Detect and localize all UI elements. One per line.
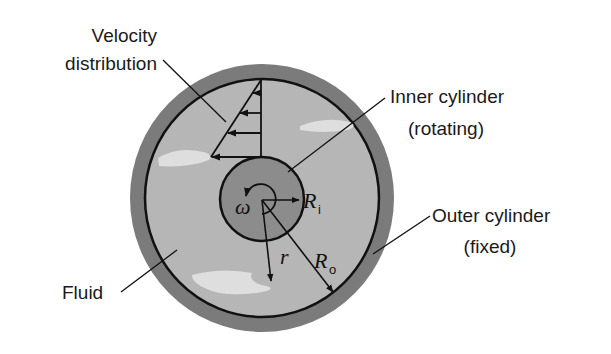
inner-label-line1: Inner cylinder (390, 86, 505, 107)
couette-flow-diagram: ω R i r R o Velocity distribution Inner … (0, 0, 611, 354)
outer-label-line1: Outer cylinder (432, 205, 551, 226)
inner-label-line2: (rotating) (408, 118, 484, 139)
velocity-label-line2: distribution (65, 53, 157, 74)
fluid-label: Fluid (62, 282, 103, 303)
r-symbol: r (280, 244, 289, 269)
outer-label-line2: (fixed) (464, 236, 517, 257)
ri-symbol: R (302, 188, 317, 213)
omega-symbol: ω (235, 194, 251, 219)
ri-subscript: i (318, 202, 321, 217)
ro-subscript: o (329, 262, 336, 277)
ro-symbol: R (313, 248, 328, 273)
velocity-label-line1: Velocity (92, 25, 158, 46)
